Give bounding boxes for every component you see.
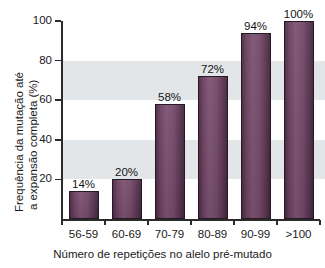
bar-group: 94%	[241, 21, 271, 219]
x-axis-category-label: 90-99	[234, 228, 277, 240]
bar-group: 72%	[198, 21, 228, 219]
bar[interactable]: 100%	[284, 21, 314, 219]
y-axis-tick-label: 80	[12, 55, 52, 67]
bar-value-label: 58%	[158, 91, 181, 103]
x-axis-title: Número de repetições no alelo pré-mutado	[0, 248, 325, 260]
bar[interactable]: 14%	[69, 191, 99, 219]
bar[interactable]: 20%	[112, 179, 142, 219]
x-axis-tick	[61, 220, 63, 225]
bar[interactable]: 58%	[155, 104, 185, 219]
x-axis-tick	[104, 220, 106, 225]
x-axis-category-label: 80-89	[191, 228, 234, 240]
bar-group: 14%	[69, 21, 99, 219]
plot-area: 14%20%58%72%94%100%	[62, 21, 320, 219]
bar-value-label: 94%	[244, 20, 267, 32]
x-axis-tick	[190, 220, 192, 225]
x-axis-category-label: 60-69	[105, 228, 148, 240]
y-axis-tick-label: 100	[12, 15, 52, 27]
bar-group: 20%	[112, 21, 142, 219]
y-axis-title-line-2: a expansão completa (%)	[27, 80, 39, 210]
y-axis-title-line-1: Frequência da mutação até	[13, 72, 25, 212]
bar-value-label: 100%	[284, 8, 313, 20]
bar-value-label: 72%	[201, 63, 224, 75]
bar-chart-figure: 20406080100 14%20%58%72%94%100% 56-5960-…	[0, 0, 325, 268]
y-axis-line	[61, 21, 63, 220]
x-axis-tick	[233, 220, 235, 225]
bar-value-label: 14%	[72, 178, 95, 190]
x-axis-tick	[276, 220, 278, 225]
bar-group: 100%	[284, 21, 314, 219]
bar-group: 58%	[155, 21, 185, 219]
x-axis-category-label: >100	[277, 228, 320, 240]
x-axis-tick	[147, 220, 149, 225]
x-axis-category-label: 56-59	[62, 228, 105, 240]
bar[interactable]: 72%	[198, 76, 228, 219]
bar-value-label: 20%	[115, 166, 138, 178]
bar[interactable]: 94%	[241, 33, 271, 219]
x-axis-category-label: 70-79	[148, 228, 191, 240]
x-axis-tick	[319, 220, 321, 225]
